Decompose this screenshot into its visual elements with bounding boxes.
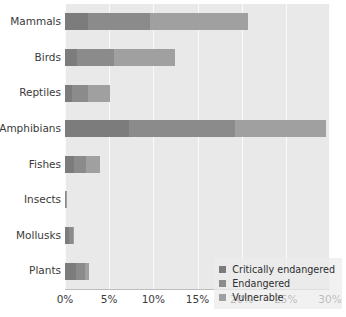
legend-swatch-icon	[219, 294, 226, 301]
bar-stack	[65, 227, 330, 244]
bar-segment[interactable]	[88, 85, 110, 102]
legend-label: Endangered	[232, 278, 290, 289]
bar-row[interactable]	[65, 4, 330, 40]
x-axis-tick-label: 0%	[57, 293, 74, 305]
bar-segment[interactable]	[65, 156, 74, 173]
bar-segment[interactable]	[65, 49, 77, 66]
bar-stack	[65, 120, 330, 137]
y-axis: MammalsBirdsReptilesAmphibiansFishesInse…	[0, 4, 61, 289]
bar-segment[interactable]	[150, 13, 248, 30]
y-axis-label: Insects	[24, 182, 61, 218]
legend-item[interactable]: Vulnerable	[219, 291, 335, 304]
bar-row[interactable]	[65, 75, 330, 111]
bar-stack	[65, 49, 330, 66]
bar-segment[interactable]	[74, 156, 86, 173]
bar-segment[interactable]	[85, 263, 89, 280]
bar-segment[interactable]	[86, 156, 100, 173]
chart-legend: Critically endangeredEndangeredVulnerabl…	[214, 258, 342, 309]
y-axis-label: Mammals	[10, 4, 61, 40]
x-axis-tick-label: 5%	[101, 293, 118, 305]
bar-segment[interactable]	[65, 263, 76, 280]
y-axis-label: Reptiles	[19, 75, 61, 111]
bar-segment[interactable]	[88, 13, 150, 30]
bar-segment[interactable]	[129, 120, 235, 137]
bar-segment[interactable]	[65, 85, 72, 102]
bar-segment[interactable]	[76, 263, 85, 280]
bar-segment[interactable]	[77, 49, 113, 66]
bar-row[interactable]	[65, 40, 330, 76]
y-axis-label: Amphibians	[0, 111, 61, 147]
bar-stack	[65, 85, 330, 102]
bar-segment[interactable]	[235, 120, 325, 137]
legend-label: Critically endangered	[232, 264, 335, 275]
legend-label: Vulnerable	[232, 292, 283, 303]
bar-segment[interactable]	[73, 227, 74, 244]
x-axis-tick-label: 15%	[186, 293, 209, 305]
bar-stack	[65, 13, 330, 30]
bar-row[interactable]	[65, 111, 330, 147]
bar-chart: MammalsBirdsReptilesAmphibiansFishesInse…	[0, 0, 346, 317]
plot-area	[65, 4, 330, 289]
y-axis-label: Birds	[35, 40, 61, 76]
legend-item[interactable]: Critically endangered	[219, 263, 335, 276]
bar-row[interactable]	[65, 182, 330, 218]
bar-segment[interactable]	[65, 13, 88, 30]
bar-segment[interactable]	[65, 120, 129, 137]
bar-stack	[65, 191, 330, 208]
x-axis-tick-label: 10%	[142, 293, 165, 305]
bar-row[interactable]	[65, 147, 330, 183]
y-axis-label: Fishes	[29, 147, 61, 183]
bar-stack	[65, 156, 330, 173]
bar-segment[interactable]	[72, 85, 88, 102]
y-axis-label: Mollusks	[16, 218, 61, 254]
bar-segment[interactable]	[114, 49, 175, 66]
bar-row[interactable]	[65, 218, 330, 254]
y-axis-label: Plants	[29, 253, 61, 289]
legend-item[interactable]: Endangered	[219, 277, 335, 290]
legend-swatch-icon	[219, 266, 226, 273]
legend-swatch-icon	[219, 280, 226, 287]
